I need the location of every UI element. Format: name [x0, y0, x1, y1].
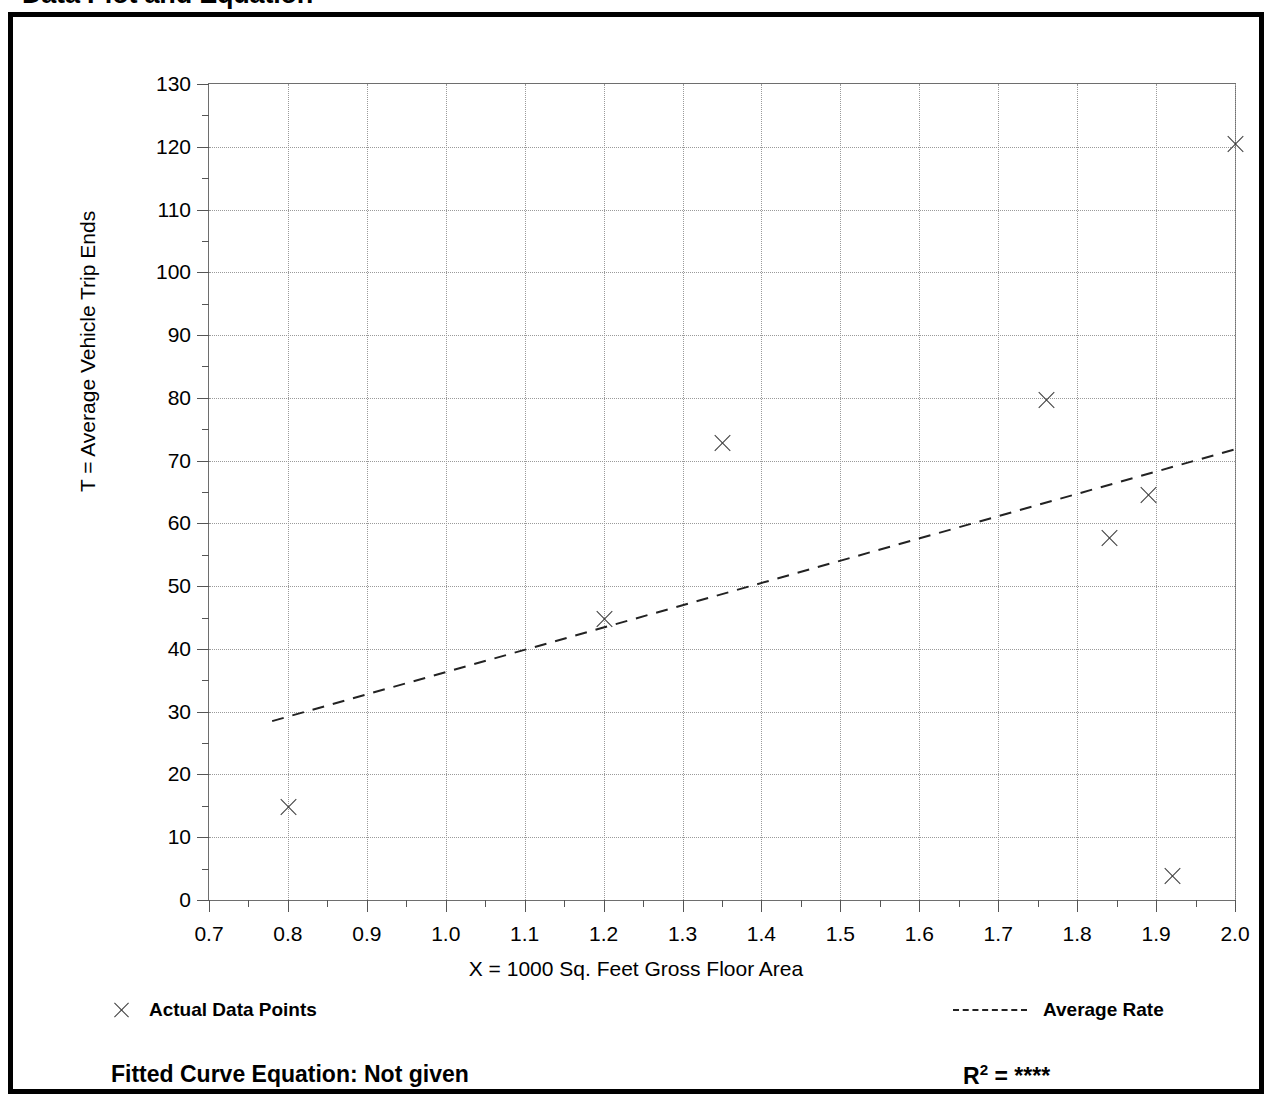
y-axis-tick-label: 20	[168, 762, 191, 786]
x-axis-tick	[525, 900, 526, 912]
y-axis-tick-label: 70	[168, 449, 191, 473]
y-axis-tick	[197, 210, 209, 211]
x-axis-tick-label: 1.1	[510, 922, 539, 946]
r-value: ****	[1014, 1063, 1050, 1089]
y-axis-minor-tick	[202, 304, 209, 305]
y-axis-minor-tick	[202, 241, 209, 242]
y-axis-tick-label: 10	[168, 825, 191, 849]
average-rate-line	[272, 449, 1235, 721]
legend: Actual Data Points Average Rate	[13, 999, 1259, 1033]
x-axis-minor-tick	[801, 900, 802, 907]
legend-item-actual-data-points: Actual Data Points	[111, 999, 317, 1021]
y-axis-minor-tick	[202, 869, 209, 870]
y-axis-tick-label: 80	[168, 386, 191, 410]
x-axis-tick-label: 1.8	[1063, 922, 1092, 946]
gridline-vertical	[1235, 84, 1236, 900]
y-axis-tick-label: 30	[168, 700, 191, 724]
fitted-curve-equation: Fitted Curve Equation: Not given	[111, 1061, 469, 1088]
y-axis-tick	[197, 461, 209, 462]
x-axis-tick-label: 0.9	[352, 922, 381, 946]
y-axis-minor-tick	[202, 178, 209, 179]
x-axis-tick	[367, 900, 368, 912]
x-axis-tick	[998, 900, 999, 912]
y-axis-minor-tick	[202, 555, 209, 556]
y-axis-minor-tick	[202, 680, 209, 681]
x-axis-tick-label: 1.9	[1141, 922, 1170, 946]
y-axis-tick	[197, 649, 209, 650]
x-axis-minor-tick	[406, 900, 407, 907]
figure-frame: T = Average Vehicle Trip Ends X = 1000 S…	[8, 12, 1264, 1094]
y-axis-tick-label: 120	[156, 135, 191, 159]
y-axis-tick-label: 0	[179, 888, 191, 912]
x-axis-minor-tick	[880, 900, 881, 907]
x-axis-tick-label: 1.0	[431, 922, 460, 946]
x-axis-tick-label: 0.8	[273, 922, 302, 946]
r-squared-value: R2 = ****	[963, 1061, 1050, 1090]
x-axis-tick	[288, 900, 289, 912]
legend-item-average-rate: Average Rate	[953, 999, 1164, 1021]
y-axis-tick	[197, 84, 209, 85]
x-axis-tick	[683, 900, 684, 912]
y-axis-tick	[197, 147, 209, 148]
x-axis-tick	[209, 900, 210, 912]
x-axis-tick	[840, 900, 841, 912]
y-axis-tick-label: 90	[168, 323, 191, 347]
x-axis-minor-tick	[1117, 900, 1118, 907]
y-axis-tick-label: 50	[168, 574, 191, 598]
x-axis-minor-tick	[564, 900, 565, 907]
y-axis-minor-tick	[202, 366, 209, 367]
legend-label-average-rate: Average Rate	[1043, 999, 1164, 1021]
y-axis-minor-tick	[202, 115, 209, 116]
x-axis-tick	[446, 900, 447, 912]
y-axis-tick	[197, 272, 209, 273]
y-axis-minor-tick	[202, 618, 209, 619]
x-axis-tick	[1156, 900, 1157, 912]
x-axis-minor-tick	[959, 900, 960, 907]
x-axis-minor-tick	[1038, 900, 1039, 907]
y-axis-tick-label: 130	[156, 72, 191, 96]
x-axis-tick-label: 0.7	[194, 922, 223, 946]
x-axis-tick-label: 2.0	[1220, 922, 1249, 946]
y-axis-tick	[197, 774, 209, 775]
y-axis-tick-label: 40	[168, 637, 191, 661]
y-axis-title: T = Average Vehicle Trip Ends	[76, 211, 100, 492]
y-axis-tick	[197, 586, 209, 587]
r-equals: =	[988, 1063, 1014, 1089]
x-axis-tick-label: 1.5	[826, 922, 855, 946]
r-symbol: R	[963, 1063, 980, 1089]
x-axis-tick-label: 1.6	[905, 922, 934, 946]
x-axis-minor-tick	[643, 900, 644, 907]
x-axis-tick-label: 1.3	[668, 922, 697, 946]
x-axis-title: X = 1000 Sq. Feet Gross Floor Area	[13, 957, 1259, 981]
y-axis-tick-label: 60	[168, 511, 191, 535]
y-axis-minor-tick	[202, 492, 209, 493]
legend-label-actual-data-points: Actual Data Points	[149, 999, 317, 1021]
y-axis-tick	[197, 398, 209, 399]
dashed-line-icon	[953, 1009, 1027, 1011]
y-axis-tick	[197, 523, 209, 524]
y-axis-minor-tick	[202, 806, 209, 807]
average-rate-trend-line	[209, 84, 1235, 900]
y-axis-minor-tick	[202, 743, 209, 744]
x-axis-tick	[1077, 900, 1078, 912]
x-axis-tick	[604, 900, 605, 912]
x-axis-minor-tick	[327, 900, 328, 907]
plot-area: 0.70.80.91.01.11.21.31.41.51.61.71.81.92…	[208, 83, 1236, 901]
x-axis-tick	[761, 900, 762, 912]
y-axis-tick	[197, 335, 209, 336]
y-axis-minor-tick	[202, 429, 209, 430]
r-exponent: 2	[980, 1061, 988, 1078]
y-axis-tick-label: 110	[158, 198, 191, 222]
x-axis-tick-label: 1.7	[984, 922, 1013, 946]
x-axis-minor-tick	[485, 900, 486, 907]
x-axis-tick-label: 1.2	[589, 922, 618, 946]
equation-row: Fitted Curve Equation: Not given R2 = **…	[13, 1061, 1259, 1101]
x-axis-minor-tick	[722, 900, 723, 907]
x-axis-minor-tick	[1196, 900, 1197, 907]
x-axis-tick	[919, 900, 920, 912]
y-axis-tick	[197, 837, 209, 838]
x-axis-tick	[1235, 900, 1236, 912]
y-axis-tick	[197, 900, 209, 901]
page-title: Data Plot and Equation	[22, 0, 313, 10]
y-axis-tick	[197, 712, 209, 713]
